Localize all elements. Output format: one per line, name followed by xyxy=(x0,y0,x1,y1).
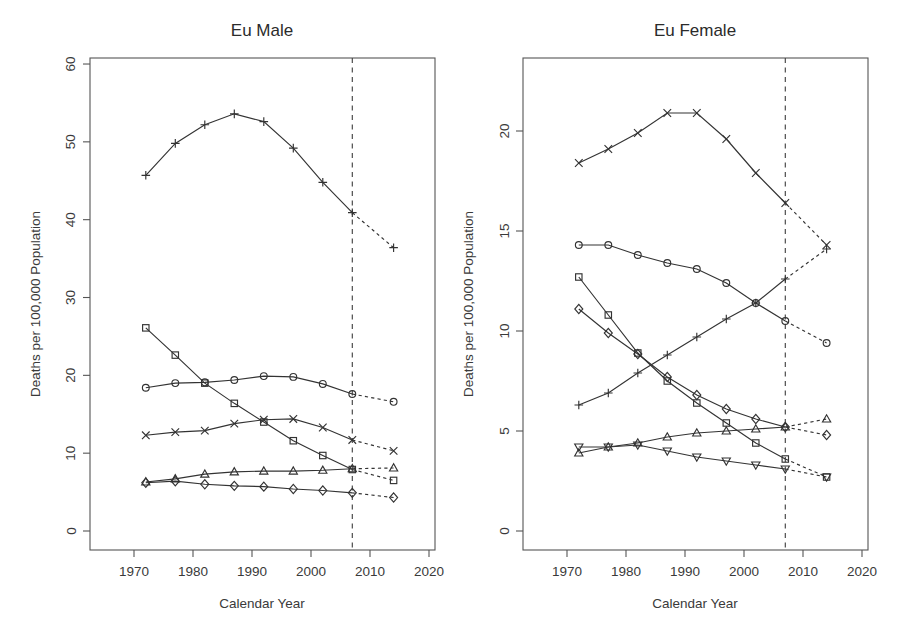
series-plus-marker xyxy=(201,120,210,129)
xticklabel-left-1990: 1990 xyxy=(237,564,267,579)
xticklabel-right-1980: 1980 xyxy=(611,564,641,579)
panel-title-right: Eu Female xyxy=(654,21,736,40)
series-cross-marker xyxy=(723,135,731,143)
xaxis-label-right: Calendar Year xyxy=(652,596,738,611)
series-line-projected xyxy=(352,468,393,469)
series-right-cross xyxy=(575,109,830,249)
yticklabel-left-40: 40 xyxy=(64,212,79,227)
series-plus-marker xyxy=(230,110,239,119)
series-right-circle xyxy=(575,242,830,347)
series-line-projected xyxy=(785,203,826,245)
series-line-projected xyxy=(352,470,393,481)
series-left-diamond xyxy=(142,477,398,503)
series-right-triangle xyxy=(575,415,831,456)
series-plus-marker xyxy=(693,333,702,342)
yticklabel-left-20: 20 xyxy=(64,368,79,383)
series-plus-marker xyxy=(575,401,584,410)
yticklabel-right-10: 10 xyxy=(497,323,512,338)
plot-frame-right xyxy=(523,58,868,550)
series-line-projected xyxy=(352,440,393,451)
yaxis-label-right: Deaths per 100,000 Population xyxy=(461,211,476,397)
series-cross-marker xyxy=(752,169,760,177)
plot-frame-left xyxy=(90,58,435,550)
yticklabel-left-60: 60 xyxy=(64,57,79,72)
series-line-observed xyxy=(146,328,352,470)
series-left-plus xyxy=(142,110,398,252)
chart-svg: Eu Male010203040506019701980199020002010… xyxy=(0,0,902,644)
series-line-projected xyxy=(785,249,826,279)
xticklabel-right-2020: 2020 xyxy=(847,564,877,579)
series-line-observed xyxy=(146,376,352,394)
xticklabel-right-2000: 2000 xyxy=(729,564,759,579)
series-right-square xyxy=(576,274,830,480)
xticklabel-left-2010: 2010 xyxy=(355,564,385,579)
yticklabel-right-0: 0 xyxy=(497,527,512,535)
series-line-projected xyxy=(785,459,826,477)
series-left-square xyxy=(143,325,397,484)
series-triangle-marker xyxy=(260,467,268,474)
series-line-observed xyxy=(579,309,786,427)
yticklabel-left-10: 10 xyxy=(64,446,79,461)
xticklabel-right-1990: 1990 xyxy=(670,564,700,579)
series-line-projected xyxy=(785,321,826,343)
series-plus-marker xyxy=(722,315,731,324)
series-line-observed xyxy=(579,245,786,321)
panel-title-left: Eu Male xyxy=(231,21,293,40)
yticklabel-right-20: 20 xyxy=(497,123,512,138)
series-cross-marker xyxy=(575,159,583,167)
series-line-observed xyxy=(579,113,786,203)
yticklabel-left-0: 0 xyxy=(64,527,79,535)
series-line-projected xyxy=(352,213,393,248)
series-line-projected xyxy=(352,394,393,402)
yticklabel-right-15: 15 xyxy=(497,223,512,238)
yaxis-label-left: Deaths per 100,000 Population xyxy=(28,211,43,397)
series-cross-marker xyxy=(319,424,327,432)
series-cross-marker xyxy=(782,199,790,207)
series-left-cross xyxy=(142,415,397,455)
series-line-observed xyxy=(146,114,352,213)
yticklabel-right-5: 5 xyxy=(497,427,512,435)
yticklabel-left-30: 30 xyxy=(64,290,79,305)
xticklabel-right-2010: 2010 xyxy=(788,564,818,579)
series-line-observed xyxy=(146,469,352,482)
series-plus-marker xyxy=(663,351,672,360)
series-cross-marker xyxy=(634,129,642,137)
series-cross-marker xyxy=(605,145,613,153)
series-line-projected xyxy=(785,419,826,427)
xaxis-label-left: Calendar Year xyxy=(219,596,305,611)
series-plus-marker xyxy=(389,243,398,252)
series-left-circle xyxy=(142,373,397,405)
yticklabel-left-50: 50 xyxy=(64,134,79,149)
xticklabel-left-1970: 1970 xyxy=(119,564,149,579)
series-plus-marker xyxy=(822,245,831,254)
series-triangle-marker xyxy=(390,464,398,471)
series-triangle-down-marker xyxy=(575,444,583,451)
xticklabel-left-1980: 1980 xyxy=(178,564,208,579)
xticklabel-right-1970: 1970 xyxy=(552,564,582,579)
xticklabel-left-2000: 2000 xyxy=(296,564,326,579)
series-line-projected xyxy=(785,427,826,435)
series-right-plus xyxy=(575,245,831,410)
series-line-projected xyxy=(352,493,393,498)
series-line-projected xyxy=(785,469,826,477)
series-cross-marker xyxy=(390,447,398,455)
series-triangle-marker xyxy=(823,415,831,422)
panel-right: Eu Female0510152019701980199020002010202… xyxy=(461,21,877,611)
series-plus-marker xyxy=(634,369,643,378)
panel-left: Eu Male010203040506019701980199020002010… xyxy=(28,21,444,611)
xticklabel-left-2020: 2020 xyxy=(414,564,444,579)
series-plus-marker xyxy=(604,389,613,398)
figure-canvas: Eu Male010203040506019701980199020002010… xyxy=(0,0,902,644)
